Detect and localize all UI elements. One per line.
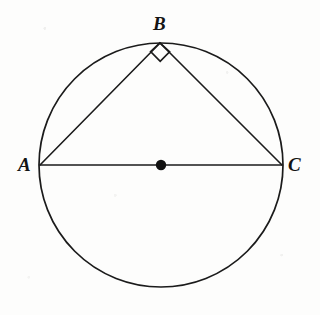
chord-segment-ab	[40, 43, 160, 165]
circle-center-point	[156, 160, 166, 170]
geometry-figure: A B C	[0, 0, 320, 315]
vertex-label-c: C	[288, 155, 301, 174]
circle-diagram-svg	[0, 0, 320, 315]
right-angle-marker-icon	[151, 43, 170, 62]
chord-segment-bc	[160, 43, 282, 165]
vertex-label-b: B	[153, 14, 166, 33]
vertex-label-a: A	[18, 155, 31, 174]
